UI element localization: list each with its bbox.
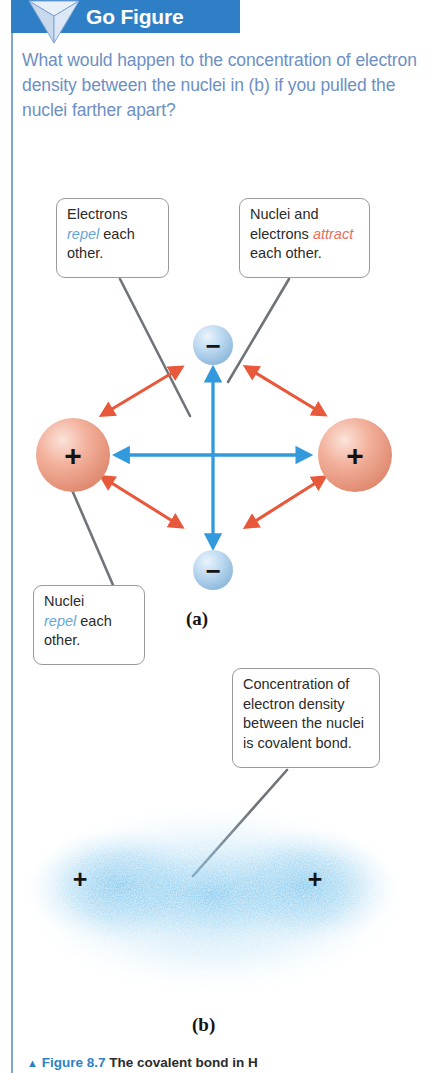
left-margin-rule xyxy=(11,30,13,1073)
callout-nuclei-repel-line2-rest: each xyxy=(76,613,111,629)
callout-nuclei-repel: Nuclei repel each other. xyxy=(33,585,145,665)
svg-text:+: + xyxy=(346,439,364,472)
caption-marker-icon: ▲ xyxy=(27,1057,38,1069)
callout-leader-lines xyxy=(72,279,289,585)
callout-attract-line1: Nuclei and xyxy=(250,206,319,222)
callout-covalent-line3: between the nuclei xyxy=(243,715,364,731)
svg-text:+: + xyxy=(73,865,88,893)
callout-nuclei-repel-line1: Nuclei xyxy=(44,593,84,609)
electron-sphere-top: − xyxy=(193,325,233,365)
callout-electrons-repel-emphasis: repel xyxy=(67,226,99,242)
attraction-arrows xyxy=(102,367,325,527)
callout-covalent-line4: is covalent bond. xyxy=(243,735,352,751)
callout-nuclei-repel-emphasis: repel xyxy=(44,613,76,629)
figure-page: Go Figure What would happen to the conce… xyxy=(0,0,432,1073)
repulsion-arrows xyxy=(116,368,310,547)
caption-figure-number: Figure 8.7 xyxy=(42,1055,106,1070)
nucleus-sphere-left: + xyxy=(36,418,110,492)
caption-text: The covalent bond in H xyxy=(109,1055,258,1070)
callout-nuclei-repel-line3: other. xyxy=(44,632,80,648)
figure-graphics: + + − − + + xyxy=(0,0,432,1073)
electron-sphere-bottom: − xyxy=(193,550,233,590)
nucleus-sphere-right: + xyxy=(318,418,392,492)
panel-label-a: (a) xyxy=(186,608,208,630)
svg-text:−: − xyxy=(205,331,220,361)
callout-electrons-repel: Electrons repel each other. xyxy=(56,198,169,278)
callout-attract-line3: each other. xyxy=(250,245,322,261)
figure-caption: ▲ Figure 8.7 The covalent bond in H xyxy=(27,1054,427,1072)
cloud-nucleus-left: + xyxy=(73,865,88,893)
svg-text:−: − xyxy=(205,556,220,586)
svg-text:+: + xyxy=(64,439,82,472)
callout-covalent-line1: Concentration of xyxy=(243,676,349,692)
go-figure-title: Go Figure xyxy=(86,3,183,31)
covalent-leader-line xyxy=(193,770,287,876)
svg-text:+: + xyxy=(308,865,323,893)
callout-electrons-repel-line2-rest: each xyxy=(99,226,134,242)
cloud-nucleus-right: + xyxy=(308,865,323,893)
callout-attract-line2-prefix: electrons xyxy=(250,226,313,242)
callout-attract-emphasis: attract xyxy=(313,226,353,242)
panel-label-b: (b) xyxy=(192,1014,215,1036)
inverted-triangle-icon xyxy=(26,0,82,45)
electron-density-cloud xyxy=(25,805,401,991)
callout-nuclei-electrons-attract: Nuclei and electrons attract each other. xyxy=(239,198,370,278)
callout-electrons-repel-line3: other. xyxy=(67,245,103,261)
callout-covalent-bond: Concentration of electron density betwee… xyxy=(232,668,380,768)
callout-covalent-line2: electron density xyxy=(243,696,345,712)
go-figure-question: What would happen to the concentration o… xyxy=(22,48,426,123)
callout-electrons-repel-line1: Electrons xyxy=(67,206,127,222)
